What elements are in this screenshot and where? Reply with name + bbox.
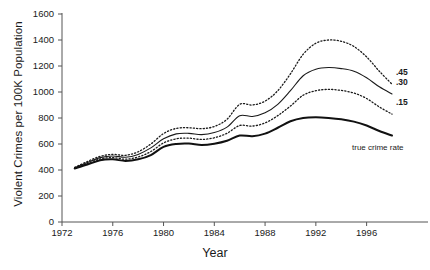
series-line-2 xyxy=(75,89,392,168)
plot-area xyxy=(0,0,430,270)
series-line-0 xyxy=(75,40,392,167)
violent-crime-rate-chart: Violent Crimes per 100K Population Year … xyxy=(0,0,430,270)
series-line-3 xyxy=(75,117,392,168)
series-line-1 xyxy=(75,68,392,168)
